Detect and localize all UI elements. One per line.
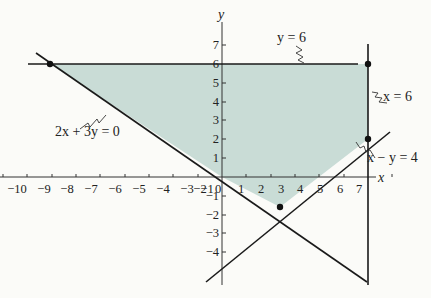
svg-text:6: 6: [213, 57, 219, 71]
svg-text:7: 7: [356, 182, 362, 196]
y-axis-label: y: [216, 7, 225, 22]
label-y-equals-6: y = 6: [277, 30, 306, 45]
svg-text:−1: −1: [206, 189, 219, 203]
label-x-equals-6: x = 6: [383, 89, 412, 104]
svg-text:2: 2: [258, 182, 264, 196]
svg-text:−9: −9: [37, 182, 50, 196]
svg-text:−5: −5: [132, 182, 145, 196]
svg-text:1: 1: [213, 151, 219, 165]
x-axis-label: x: [377, 170, 385, 185]
svg-text:−4: −4: [206, 245, 220, 259]
feasible-region-diagram: y x −10 −9 −8 −7 −6 −5 −4 −3 −2 −1 0 1 2…: [0, 0, 431, 298]
vertex-2.4-neg1.6: [277, 204, 283, 210]
svg-text:3: 3: [278, 182, 284, 196]
svg-text:−7: −7: [84, 182, 97, 196]
svg-text:5: 5: [213, 76, 219, 90]
pointer-y6: [296, 46, 304, 63]
vertex-6-6: [365, 61, 371, 67]
svg-text:−3: −3: [180, 182, 193, 196]
svg-text:7: 7: [213, 38, 219, 52]
svg-text:−2: −2: [206, 208, 219, 222]
svg-text:4: 4: [213, 95, 220, 109]
svg-text:−10: −10: [7, 182, 27, 196]
svg-text:1: 1: [238, 182, 244, 196]
svg-text:−6: −6: [108, 182, 121, 196]
label-x-minus-y-equals-4: x − y = 4: [367, 150, 418, 165]
label-2x-plus-3y-equals-0: 2x + 3y = 0: [55, 124, 120, 139]
vertex-6-2: [365, 136, 371, 142]
svg-text:6: 6: [337, 182, 343, 196]
svg-text:3: 3: [213, 113, 219, 127]
svg-text:−4: −4: [156, 182, 170, 196]
svg-text:−8: −8: [60, 182, 73, 196]
svg-text:5: 5: [317, 182, 323, 196]
svg-text:−3: −3: [206, 226, 219, 240]
svg-text:4: 4: [297, 182, 304, 196]
svg-text:2: 2: [213, 132, 219, 146]
vertex-neg9-6: [47, 61, 53, 67]
